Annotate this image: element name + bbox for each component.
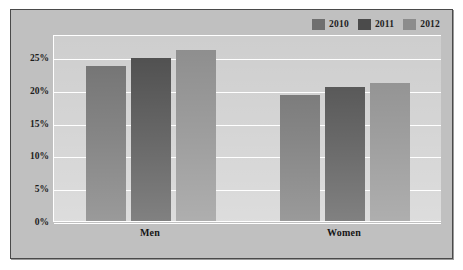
legend-label-2012: 2012 (420, 20, 440, 30)
y-axis-tick-label: 15% (30, 120, 49, 130)
chart-legend: 2010 2011 2012 (312, 17, 440, 32)
bar-women-2010 (280, 95, 320, 222)
legend-swatch-2010 (312, 19, 325, 30)
y-axis-tick-label: 0% (35, 218, 49, 228)
bar-men-2012 (176, 50, 216, 222)
x-axis-group-label-women: Women (327, 228, 361, 238)
legend-entry-2011: 2011 (358, 19, 394, 30)
y-axis-tick-label: 25% (30, 54, 49, 64)
legend-swatch-2012 (403, 19, 416, 30)
legend-label-2011: 2011 (375, 20, 394, 30)
gridline (54, 59, 441, 60)
legend-swatch-2011 (358, 19, 371, 30)
bar-men-2010 (86, 66, 126, 222)
bar-chart-figure: 2010 2011 2012 0%5%10%15%20%25% MenWomen (0, 0, 463, 270)
x-axis-group-label-men: Men (140, 228, 160, 238)
legend-entry-2010: 2010 (312, 19, 349, 30)
y-axis-tick-label: 10% (30, 152, 49, 162)
bar-men-2011 (131, 58, 171, 222)
legend-label-2010: 2010 (329, 20, 349, 30)
bar-women-2011 (325, 87, 365, 222)
chart-frame: 2010 2011 2012 0%5%10%15%20%25% MenWomen (10, 9, 453, 259)
legend-entry-2012: 2012 (403, 19, 440, 30)
x-axis-labels: MenWomen (53, 222, 441, 244)
y-axis-tick-label: 5% (35, 185, 49, 195)
bar-women-2012 (370, 83, 410, 222)
y-axis-tick-label: 20% (30, 87, 49, 97)
plot-area: 0%5%10%15%20%25% (53, 35, 441, 222)
